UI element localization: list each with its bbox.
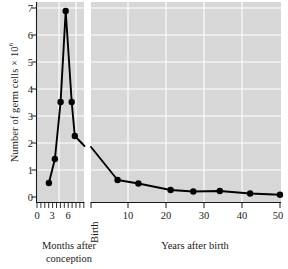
data-point xyxy=(69,99,75,105)
data-point xyxy=(190,188,196,194)
postnatal-x-axis xyxy=(91,203,282,209)
postnatal-axis-caption: Years after birth xyxy=(140,240,250,253)
data-point xyxy=(277,192,283,198)
postnatal-gridlines xyxy=(91,2,281,202)
data-point xyxy=(247,190,253,196)
y-axis xyxy=(32,2,37,203)
plot-canvas xyxy=(0,0,288,269)
prenatal-axis-caption-line1: Months after xyxy=(14,240,124,253)
data-point xyxy=(57,99,63,105)
data-point xyxy=(114,177,120,183)
data-point xyxy=(72,133,78,139)
x-tick-label-prenatal-6: 6 xyxy=(57,211,79,221)
x-tick-label-postnatal-10: 10 xyxy=(117,211,139,221)
postnatal-axis-caption-text: Years after birth xyxy=(140,240,250,253)
data-point xyxy=(135,180,141,186)
x-tick-label-postnatal-30: 30 xyxy=(193,211,215,221)
x-tick-label-postnatal-20: 20 xyxy=(155,211,177,221)
x-tick-label-postnatal-50: 50 xyxy=(267,211,288,221)
data-point xyxy=(217,188,223,194)
data-point xyxy=(46,180,52,186)
prenatal-axis-caption-line2: conception xyxy=(14,253,124,266)
data-point xyxy=(167,187,173,193)
postnatal-series xyxy=(91,147,283,198)
germ-cell-count-chart: Number of germ cells × 106 7 6 5 4 3 2 1… xyxy=(0,0,288,269)
x-tick-label-postnatal-40: 40 xyxy=(231,211,253,221)
data-point xyxy=(52,156,58,162)
prenatal-axis-caption: Months after conception xyxy=(14,240,124,265)
prenatal-x-axis xyxy=(37,203,85,209)
data-point xyxy=(62,8,68,14)
